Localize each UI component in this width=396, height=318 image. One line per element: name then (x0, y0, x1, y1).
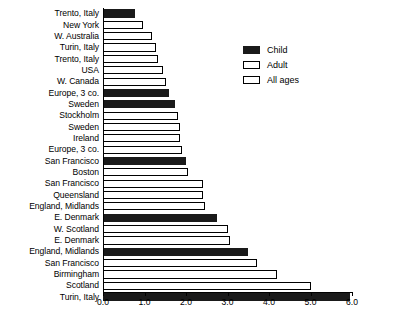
bar-row: Ireland (0, 133, 396, 144)
bar-track (103, 133, 396, 144)
bar-row-label: Trento, Italy (0, 9, 103, 18)
x-tick (311, 292, 312, 296)
bar-track (103, 190, 396, 201)
chart-legend: Child Adult All ages (243, 43, 299, 88)
bar-open (103, 202, 205, 210)
bar-row: Boston (0, 167, 396, 178)
bar-track (103, 246, 396, 257)
bar-track (103, 178, 396, 189)
bar-row: W. Scotland (0, 224, 396, 235)
x-tick (352, 292, 353, 296)
bar-track (103, 8, 396, 19)
bar-open (103, 112, 178, 120)
bar-open (103, 180, 203, 188)
bar-row-label: Europe, 3 co. (0, 89, 103, 98)
bar-track (103, 87, 396, 98)
bar-open (103, 168, 188, 176)
bar-track (103, 224, 396, 235)
legend-item-all-ages: All ages (243, 73, 299, 86)
bar-row-label: Scotland (0, 281, 103, 290)
bar-open (103, 270, 277, 278)
bar-row-label: USA (0, 66, 103, 75)
x-tick (228, 292, 229, 296)
legend-label-adult: Adult (267, 60, 288, 70)
bar-row-label: W. Canada (0, 77, 103, 86)
bar-row-label: Sweden (0, 123, 103, 132)
bar-child (103, 157, 186, 165)
bar-child (103, 9, 135, 17)
bar-row: Europe, 3 co. (0, 87, 396, 98)
bar-row-label: England, Midlands (0, 202, 103, 211)
bar-row: Trento, Italy (0, 8, 396, 19)
bar-chart: Trento, ItalyNew YorkW. AustraliaTurin, … (0, 0, 396, 318)
bar-row-label: Turin, Italy (0, 43, 103, 52)
bar-row: Scotland (0, 280, 396, 291)
bar-open (103, 282, 311, 290)
bar-track (103, 167, 396, 178)
bar-child (103, 214, 217, 222)
bar-row: Sweden (0, 99, 396, 110)
bar-row-label: Europe, 3 co. (0, 145, 103, 154)
bar-track (103, 155, 396, 166)
bar-open (103, 43, 156, 51)
bar-open (103, 191, 203, 199)
bar-open (103, 225, 228, 233)
bar-row-label: W. Scotland (0, 225, 103, 234)
bar-row-label: Birmingham (0, 270, 103, 279)
bar-track (103, 269, 396, 280)
x-tick-label: 5.0 (305, 297, 317, 307)
bar-track (103, 121, 396, 132)
x-tick-label: 3.0 (222, 297, 234, 307)
bar-row-label: Ireland (0, 134, 103, 143)
bar-row-label: Trento, Italy (0, 55, 103, 64)
x-tick (103, 292, 104, 296)
legend-label-all-ages: All ages (267, 75, 299, 85)
bar-row-label: Stockholm (0, 111, 103, 120)
bar-track (103, 258, 396, 269)
bar-row: Queensland (0, 190, 396, 201)
bar-row: San Francisco (0, 178, 396, 189)
bar-child (103, 100, 175, 108)
bar-open (103, 236, 230, 244)
bar-row: San Francisco (0, 155, 396, 166)
bar-row: Turin, Italy (0, 292, 396, 303)
bar-row: Europe, 3 co. (0, 144, 396, 155)
bar-child (103, 248, 248, 256)
bar-track (103, 31, 396, 42)
legend-swatch-adult-icon (243, 61, 260, 69)
bar-row: Trento, Italy (0, 53, 396, 64)
bar-row-label: Boston (0, 168, 103, 177)
legend-label-child: Child (267, 45, 288, 55)
bar-track (103, 19, 396, 30)
bar-open (103, 66, 163, 74)
bar-row: USA (0, 65, 396, 76)
legend-item-adult: Adult (243, 58, 299, 71)
bar-row-label: E. Denmark (0, 213, 103, 222)
bar-open (103, 259, 257, 267)
bar-row: E. Denmark (0, 235, 396, 246)
bar-open (103, 32, 152, 40)
bar-track (103, 99, 396, 110)
bar-track (103, 201, 396, 212)
x-tick-label: 1.0 (139, 297, 151, 307)
bar-row-label: Sweden (0, 100, 103, 109)
bar-row: Stockholm (0, 110, 396, 121)
bar-open (103, 146, 182, 154)
bar-row-label: New York (0, 21, 103, 30)
legend-item-child: Child (243, 43, 299, 56)
x-tick-label: 4.0 (263, 297, 275, 307)
bar-row-label: San Francisco (0, 179, 103, 188)
bar-row-label: Turin, Italy (0, 293, 103, 302)
x-tick-label: 0.0 (97, 297, 109, 307)
bar-row-label: Queensland (0, 191, 103, 200)
bar-row: W. Canada (0, 76, 396, 87)
bar-row-label: E. Denmark (0, 236, 103, 245)
bar-child (103, 89, 169, 97)
bar-open (103, 78, 166, 86)
bar-open (103, 134, 180, 142)
bar-row: W. Australia (0, 31, 396, 42)
bar-open (103, 55, 158, 63)
bar-rows: Trento, ItalyNew YorkW. AustraliaTurin, … (0, 8, 396, 303)
bar-row-label: San Francisco (0, 157, 103, 166)
bar-row: Sweden (0, 121, 396, 132)
